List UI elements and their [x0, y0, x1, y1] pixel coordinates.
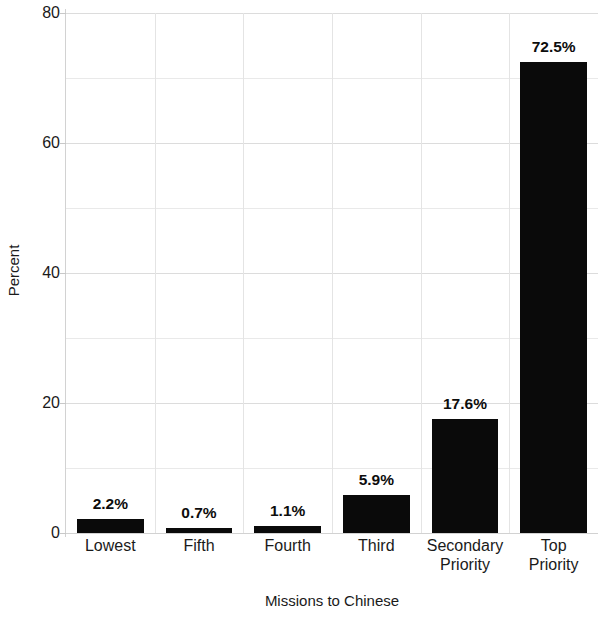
x-tick-label-line: Priority: [421, 555, 510, 574]
bar: [77, 519, 144, 533]
y-tick-label: 60: [42, 134, 60, 152]
bar-value-label: 1.1%: [243, 502, 332, 520]
bar: [432, 419, 499, 533]
bar-chart: Percent 020406080 2.2%0.7%1.1%5.9%17.6%7…: [0, 0, 599, 621]
bars-layer: 2.2%0.7%1.1%5.9%17.6%72.5%: [66, 13, 598, 533]
bar-value-label: 0.7%: [155, 504, 244, 522]
y-tickmark: [60, 273, 66, 274]
x-tick-label: TopPriority: [509, 536, 598, 574]
y-tickmark: [60, 13, 66, 14]
bar-group: 17.6%: [421, 13, 510, 533]
y-tickmark: [60, 403, 66, 404]
y-tickmark: [60, 143, 66, 144]
y-tick-label: 20: [42, 394, 60, 412]
x-tick-label-line: Top: [509, 536, 598, 555]
bar-value-label: 2.2%: [66, 495, 155, 513]
y-tick-label: 40: [42, 264, 60, 282]
bar-group: 1.1%: [243, 13, 332, 533]
bar-group: 2.2%: [66, 13, 155, 533]
bar: [520, 62, 587, 533]
x-tick-label-line: Priority: [509, 555, 598, 574]
x-tick-label: Lowest: [66, 536, 155, 555]
bar-value-label: 5.9%: [332, 471, 421, 489]
bar-group: 5.9%: [332, 13, 421, 533]
bar-group: 72.5%: [509, 13, 598, 533]
bar: [166, 528, 233, 533]
y-tickmark: [60, 533, 66, 534]
x-axis-title: Missions to Chinese: [66, 592, 598, 609]
bar-value-label: 17.6%: [421, 395, 510, 413]
x-axis-tick-labels: LowestFifthFourthThirdSecondaryPriorityT…: [66, 536, 598, 586]
x-tick-label: SecondaryPriority: [421, 536, 510, 574]
y-tick-label: 0: [51, 524, 60, 542]
x-tick-label: Fifth: [155, 536, 244, 555]
x-tick-label-line: Third: [332, 536, 421, 555]
plot-area: 2.2%0.7%1.1%5.9%17.6%72.5%: [66, 13, 598, 533]
bar-group: 0.7%: [155, 13, 244, 533]
x-tick-label: Fourth: [243, 536, 332, 555]
x-axis-line: [60, 533, 598, 534]
x-tick-label-line: Secondary: [421, 536, 510, 555]
bar-value-label: 72.5%: [509, 38, 598, 56]
x-axis-title-text: Missions to Chinese: [265, 592, 399, 609]
x-tick-label-line: Fourth: [243, 536, 332, 555]
y-tick-label: 80: [42, 4, 60, 22]
y-axis-tick-labels: 020406080: [24, 0, 60, 540]
y-axis-title-text: Percent: [6, 244, 23, 296]
x-tick-label-line: Lowest: [66, 536, 155, 555]
x-tick-label-line: Fifth: [155, 536, 244, 555]
bar: [343, 495, 410, 533]
bar: [254, 526, 321, 533]
x-tick-label: Third: [332, 536, 421, 555]
